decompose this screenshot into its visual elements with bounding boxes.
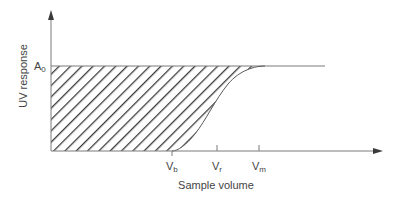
tick-label-vm: Vm xyxy=(252,160,266,174)
y-axis-arrow-icon xyxy=(48,10,54,20)
x-axis-label: Sample volume xyxy=(178,179,254,191)
a0-label: A0 xyxy=(34,60,46,74)
x-axis-arrow-icon xyxy=(373,148,383,154)
y-axis-label: UV response xyxy=(17,44,29,108)
tick-label-vr: Vr xyxy=(212,160,222,174)
breakthrough-diagram: Vb Vr Vm A0 Sample volume UV response xyxy=(0,0,397,203)
hatched-area xyxy=(51,66,271,152)
tick-label-vb: Vb xyxy=(166,160,178,174)
